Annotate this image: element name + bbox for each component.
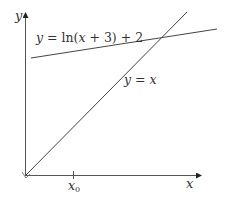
log-curve-label: y = ln(x + 3) + 2 <box>35 30 143 45</box>
y-axis-label: y <box>14 8 23 23</box>
diagram-canvas: y y = ln(x + 3) + 2 y = x x0 x <box>0 0 225 209</box>
identity-line-label: y = x <box>123 72 157 87</box>
x0-label: x0 <box>68 178 80 194</box>
x-axis-label: x <box>186 176 194 191</box>
